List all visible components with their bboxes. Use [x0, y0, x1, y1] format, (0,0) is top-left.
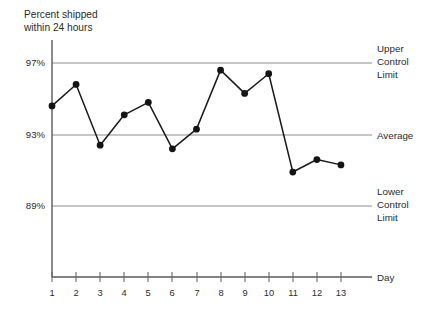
y-tick-label-97: 97%	[26, 57, 46, 68]
x-tick-label-3: 3	[97, 288, 102, 298]
x-tick-label-12: 12	[312, 288, 322, 298]
series-line-percent-shipped	[52, 70, 341, 172]
x-tick-label-7: 7	[194, 288, 199, 298]
x-tick-label-13: 13	[336, 288, 346, 298]
x-tick-label-1: 1	[49, 288, 54, 298]
data-point	[97, 142, 104, 149]
x-tick-label-10: 10	[264, 288, 274, 298]
data-point	[338, 161, 345, 168]
ucl-label-line-3: Limit	[377, 69, 398, 80]
data-point	[289, 169, 296, 176]
y-tick-label-89: 89%	[26, 200, 46, 211]
x-axis-title: Day	[377, 272, 395, 283]
chart-canvas: Percent shipped within 24 hours 97% 93% …	[0, 0, 433, 318]
x-tick-label-11: 11	[288, 288, 298, 298]
x-tick-label-2: 2	[73, 288, 78, 298]
x-tick-label-4: 4	[121, 288, 126, 298]
lcl-label-line-1: Lower	[377, 186, 404, 197]
data-point	[121, 111, 128, 118]
y-tick-label-93: 93%	[26, 129, 46, 140]
data-point	[49, 103, 56, 110]
data-point	[73, 81, 80, 88]
control-chart: Percent shipped within 24 hours 97% 93% …	[0, 0, 433, 318]
data-point	[313, 156, 320, 163]
x-tick-label-8: 8	[218, 288, 223, 298]
lcl-label-line-3: Limit	[377, 212, 398, 223]
x-tick-label-9: 9	[242, 288, 247, 298]
ucl-label-line-2: Control	[377, 56, 409, 67]
series-markers	[49, 67, 345, 176]
data-point	[145, 99, 152, 106]
data-point	[265, 70, 272, 77]
x-tick-label-6: 6	[169, 288, 174, 298]
x-tick-label-5: 5	[145, 288, 150, 298]
data-point	[193, 126, 200, 133]
chart-title-line-2: within 24 hours	[23, 22, 93, 33]
data-point	[217, 67, 224, 74]
lcl-label-line-2: Control	[377, 199, 409, 210]
chart-title-line-1: Percent shipped	[24, 9, 98, 20]
data-point	[169, 145, 176, 152]
average-label: Average	[377, 130, 414, 141]
data-point	[241, 90, 248, 97]
ucl-label-line-1: Upper	[377, 43, 404, 54]
